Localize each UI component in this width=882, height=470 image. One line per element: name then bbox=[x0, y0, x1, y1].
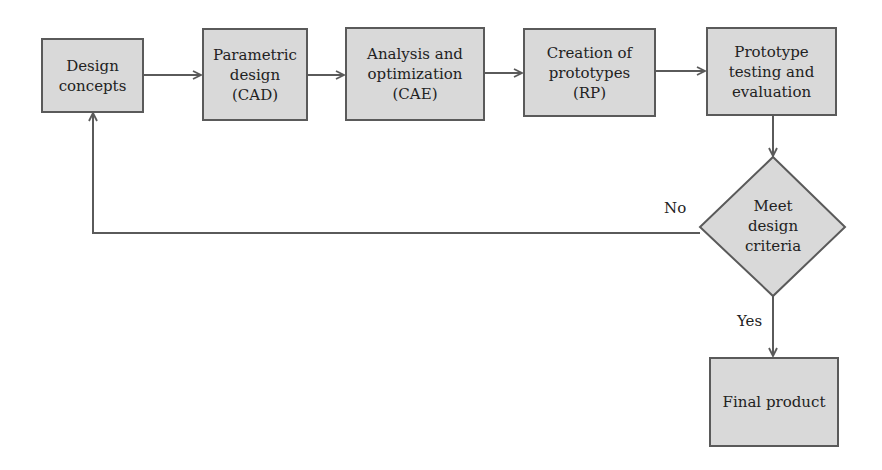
edge-label-yes: Yes bbox=[737, 312, 762, 330]
node-creation-prototypes: Creation of prototypes (RP) bbox=[523, 28, 656, 117]
edge-decision-no-loop bbox=[93, 113, 700, 233]
node-prototype-testing: Prototype testing and evaluation bbox=[706, 27, 837, 116]
node-final-product: Final product bbox=[709, 357, 839, 447]
node-parametric-design: Parametric design (CAD) bbox=[202, 28, 308, 121]
node-analysis-optimization: Analysis and optimization (CAE) bbox=[345, 27, 485, 121]
node-design-concepts: Design concepts bbox=[41, 38, 144, 113]
edge-label-no: No bbox=[664, 199, 686, 217]
node-decision-label: Meet design criteria bbox=[720, 190, 826, 262]
flowchart-canvas: Design concepts Parametric design (CAD) … bbox=[0, 0, 882, 470]
